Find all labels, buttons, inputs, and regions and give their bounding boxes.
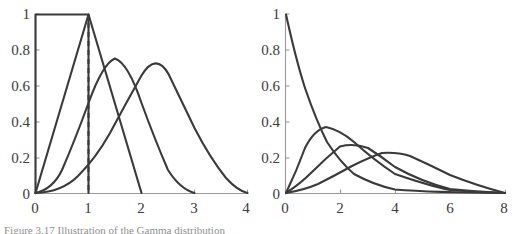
right-xtick-label: 0 bbox=[281, 200, 289, 216]
chart-panel-left: 1 0.8 0.6 0.4 0.2 0 bbox=[0, 0, 258, 222]
right-ytick-label: 0.8 bbox=[261, 42, 280, 58]
left-plot-svg: 1 0.8 0.6 0.4 0.2 0 bbox=[0, 0, 258, 222]
right-ytick-label: 0.2 bbox=[261, 150, 280, 166]
right-curve-a4 bbox=[286, 153, 505, 193]
left-xtick-label: 1 bbox=[84, 200, 92, 216]
left-xtick-label: 4 bbox=[242, 200, 250, 216]
left-xtick-label: 3 bbox=[190, 200, 198, 216]
right-xtick-label: 2 bbox=[336, 200, 344, 216]
left-xtick-label: 2 bbox=[137, 200, 145, 216]
left-xtick-label: 0 bbox=[31, 200, 39, 216]
left-ytick-label: 0.4 bbox=[11, 114, 30, 130]
chart-panel-right: 1 0.8 0.6 0.4 0.2 0 bbox=[252, 0, 520, 222]
right-ytick-label: 0.4 bbox=[261, 114, 280, 130]
left-ytick-label: 0.6 bbox=[11, 78, 30, 94]
right-ytick-label: 0 bbox=[273, 186, 281, 202]
right-ytick-label: 1 bbox=[273, 6, 281, 22]
right-plot-svg: 1 0.8 0.6 0.4 0.2 0 bbox=[252, 0, 520, 222]
right-xtick-label: 8 bbox=[500, 200, 508, 216]
left-ytick-label: 0.8 bbox=[11, 42, 30, 58]
left-ytick-label: 0 bbox=[23, 186, 31, 202]
left-ytick-label: 0.2 bbox=[11, 150, 30, 166]
left-x-ticks bbox=[89, 190, 248, 194]
right-xtick-label: 6 bbox=[446, 200, 454, 216]
right-y-ticks bbox=[286, 14, 290, 158]
right-xtick-label: 4 bbox=[391, 200, 399, 216]
figure-container: 1 0.8 0.6 0.4 0.2 0 bbox=[0, 0, 520, 234]
right-ytick-label: 0.6 bbox=[261, 78, 280, 94]
figure-caption: Figure 3.17 Illustration of the Gamma di… bbox=[4, 224, 516, 234]
left-ytick-label: 1 bbox=[23, 6, 31, 22]
